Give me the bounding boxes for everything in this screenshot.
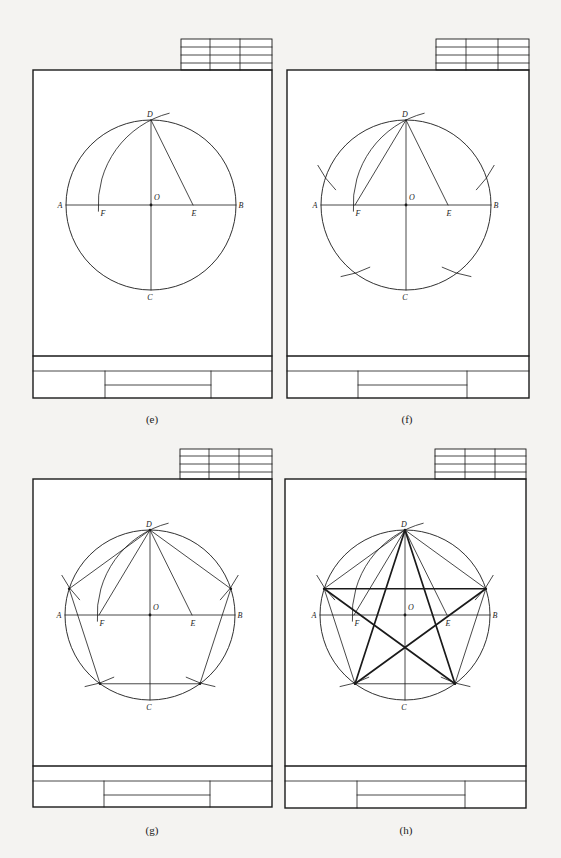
label-C: C bbox=[146, 703, 152, 712]
center-point-O bbox=[404, 614, 407, 617]
label-D: D bbox=[146, 110, 153, 119]
corner-table bbox=[180, 449, 272, 479]
label-O: O bbox=[154, 193, 160, 202]
label-A: A bbox=[56, 611, 62, 620]
pentagon-vertex bbox=[199, 682, 202, 685]
pentagon-construction-figure: ABCDEFO(e)ABCDEFO(f)ABCDEFO(g)ABCDEFO(h) bbox=[0, 0, 561, 858]
pentagon-vertex bbox=[68, 587, 71, 590]
pentagon-vertex bbox=[149, 529, 152, 532]
corner-table bbox=[436, 39, 529, 70]
center-point-O bbox=[150, 204, 153, 207]
center-point-O bbox=[149, 614, 152, 617]
center-point-O bbox=[405, 204, 408, 207]
label-E: E bbox=[446, 209, 452, 218]
corner-table bbox=[435, 449, 526, 479]
label-B: B bbox=[238, 611, 243, 620]
label-B: B bbox=[494, 201, 499, 210]
pentagon-vertex bbox=[230, 587, 233, 590]
corner-table-border bbox=[181, 39, 272, 70]
label-A: A bbox=[312, 201, 318, 210]
label-F: F bbox=[355, 209, 361, 218]
label-E: E bbox=[191, 209, 197, 218]
label-B: B bbox=[493, 611, 498, 620]
label-O: O bbox=[153, 603, 159, 612]
drawing-sheet bbox=[33, 479, 272, 807]
label-E: E bbox=[445, 619, 451, 628]
panel-caption: (g) bbox=[146, 824, 159, 837]
label-B: B bbox=[239, 201, 244, 210]
panel-h: ABCDEFO(h) bbox=[285, 449, 526, 837]
corner-table-border bbox=[436, 39, 529, 70]
label-D: D bbox=[145, 520, 152, 529]
label-O: O bbox=[408, 603, 414, 612]
panel-caption: (e) bbox=[146, 413, 159, 426]
label-D: D bbox=[400, 520, 407, 529]
corner-table bbox=[181, 39, 272, 70]
label-C: C bbox=[401, 703, 407, 712]
label-F: F bbox=[99, 619, 105, 628]
pentagon-vertex bbox=[99, 682, 102, 685]
label-D: D bbox=[401, 110, 408, 119]
panel-caption: (f) bbox=[402, 413, 413, 426]
panel-g: ABCDEFO(g) bbox=[33, 449, 272, 837]
label-F: F bbox=[100, 209, 106, 218]
panel-e: ABCDEFO(e) bbox=[33, 39, 272, 426]
panel-f: ABCDEFO(f) bbox=[287, 39, 529, 426]
label-C: C bbox=[147, 293, 153, 302]
label-F: F bbox=[354, 619, 360, 628]
panel-caption: (h) bbox=[400, 824, 413, 837]
label-C: C bbox=[402, 293, 408, 302]
label-A: A bbox=[57, 201, 63, 210]
label-E: E bbox=[190, 619, 196, 628]
label-A: A bbox=[311, 611, 317, 620]
label-O: O bbox=[409, 193, 415, 202]
